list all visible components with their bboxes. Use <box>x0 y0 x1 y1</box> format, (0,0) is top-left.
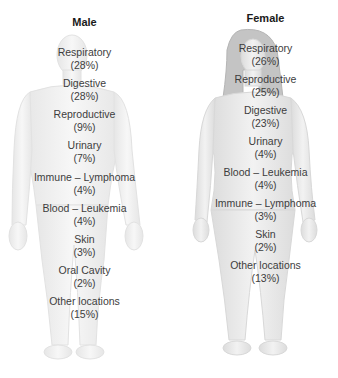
female-site-other-locations: Other locations (13%) <box>181 259 338 284</box>
male-site-reproductive: Reproductive (9%) <box>0 108 169 133</box>
female-site-blood-leukemia: Blood – Leukemia (4%) <box>181 166 338 191</box>
site-name: Urinary <box>0 139 169 152</box>
site-name: Blood – Leukemia <box>0 202 169 215</box>
site-name: Other locations <box>0 295 169 308</box>
site-percentage: (2%) <box>0 277 169 290</box>
male-site-oral-cavity: Oral Cavity (2%) <box>0 264 169 289</box>
female-site-reproductive: Reproductive (25%) <box>181 73 338 98</box>
male-figure: Male Respiratory (28%) Digestive (28%) R… <box>0 0 169 378</box>
male-site-respiratory: Respiratory (28%) <box>0 46 169 71</box>
site-name: Other locations <box>181 259 338 272</box>
site-percentage: (25%) <box>181 86 338 99</box>
female-site-skin: Skin (2%) <box>181 228 338 253</box>
site-percentage: (28%) <box>0 90 169 103</box>
site-percentage: (3%) <box>0 246 169 259</box>
site-percentage: (23%) <box>181 117 338 130</box>
site-percentage: (4%) <box>0 215 169 228</box>
female-figure: Female Respiratory (26%) Reproductive (2… <box>169 0 338 378</box>
site-name: Respiratory <box>181 42 338 55</box>
site-percentage: (26%) <box>181 55 338 68</box>
site-name: Blood – Leukemia <box>181 166 338 179</box>
site-percentage: (9%) <box>0 121 169 134</box>
site-name: Immune – Lymphoma <box>181 197 338 210</box>
male-site-digestive: Digestive (28%) <box>0 77 169 102</box>
site-percentage: (7%) <box>0 152 169 165</box>
site-name: Immune – Lymphoma <box>0 171 169 184</box>
female-site-immune-lymphoma: Immune – Lymphoma (3%) <box>181 197 338 222</box>
site-name: Urinary <box>181 135 338 148</box>
site-name: Reproductive <box>0 108 169 121</box>
female-site-digestive: Digestive (23%) <box>181 104 338 129</box>
male-site-skin: Skin (3%) <box>0 233 169 258</box>
female-site-respiratory: Respiratory (26%) <box>181 42 338 67</box>
site-percentage: (13%) <box>181 272 338 285</box>
site-name: Digestive <box>181 104 338 117</box>
site-name: Skin <box>0 233 169 246</box>
female-site-urinary: Urinary (4%) <box>181 135 338 160</box>
site-name: Skin <box>181 228 338 241</box>
site-name: Reproductive <box>181 73 338 86</box>
site-percentage: (15%) <box>0 308 169 321</box>
female-title: Female <box>181 12 338 24</box>
site-name: Respiratory <box>0 46 169 59</box>
site-percentage: (4%) <box>0 184 169 197</box>
site-name: Oral Cavity <box>0 264 169 277</box>
site-name: Digestive <box>0 77 169 90</box>
site-percentage: (2%) <box>181 241 338 254</box>
male-title: Male <box>0 16 169 28</box>
male-site-urinary: Urinary (7%) <box>0 139 169 164</box>
male-site-other-locations: Other locations (15%) <box>0 295 169 320</box>
male-site-immune-lymphoma: Immune – Lymphoma (4%) <box>0 171 169 196</box>
male-site-blood-leukemia: Blood – Leukemia (4%) <box>0 202 169 227</box>
site-percentage: (4%) <box>181 148 338 161</box>
site-percentage: (4%) <box>181 179 338 192</box>
site-percentage: (28%) <box>0 59 169 72</box>
site-percentage: (3%) <box>181 210 338 223</box>
